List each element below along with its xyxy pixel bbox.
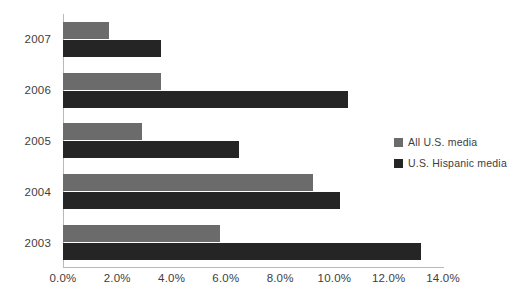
bar (63, 73, 161, 90)
x-tick-label: 4.0% (158, 272, 185, 284)
bar (63, 91, 348, 108)
bar (63, 22, 109, 39)
category-label: 2003 (0, 237, 51, 249)
plot-area (63, 14, 443, 268)
legend-label: U.S. Hispanic media (408, 157, 507, 169)
bar (63, 174, 313, 191)
bar-chart: 20072006200520042003 0.0%2.0%4.0%6.0%8.0… (0, 0, 528, 298)
bar-group (63, 166, 443, 217)
legend-item[interactable]: U.S. Hispanic media (394, 157, 507, 169)
bar-group (63, 65, 443, 116)
bar-group (63, 14, 443, 65)
chart-legend: All U.S. mediaU.S. Hispanic media (394, 136, 507, 169)
bar (63, 123, 142, 140)
bar (63, 243, 421, 260)
x-axis-tick-labels: 0.0%2.0%4.0%6.0%8.0%10.0%12.0%14.0% (63, 272, 443, 292)
bar-group (63, 116, 443, 167)
x-tick-label: 10.0% (318, 272, 352, 284)
category-axis-labels: 20072006200520042003 (0, 14, 63, 268)
legend-swatch-icon (394, 159, 403, 168)
bar (63, 40, 161, 57)
x-tick-label: 8.0% (267, 272, 294, 284)
legend-swatch-icon (394, 138, 403, 147)
x-tick-label: 2.0% (104, 272, 131, 284)
category-label: 2006 (0, 84, 51, 96)
bar (63, 225, 220, 242)
legend-label: All U.S. media (408, 136, 477, 148)
bar (63, 141, 239, 158)
x-tick-label: 0.0% (49, 272, 76, 284)
bar-group (63, 217, 443, 268)
x-tick-label: 14.0% (426, 272, 460, 284)
x-tick-label: 6.0% (212, 272, 239, 284)
x-tick-label: 12.0% (372, 272, 406, 284)
category-label: 2004 (0, 186, 51, 198)
category-label: 2007 (0, 33, 51, 45)
legend-item[interactable]: All U.S. media (394, 136, 507, 148)
category-label: 2005 (0, 135, 51, 147)
bar (63, 192, 340, 209)
